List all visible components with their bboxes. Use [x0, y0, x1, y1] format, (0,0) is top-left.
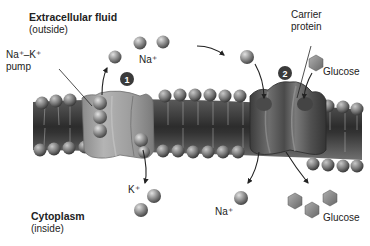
marker-1: 1 — [120, 72, 134, 86]
na-inside-label: Na⁺ — [215, 206, 233, 217]
na-ion-inside — [234, 191, 248, 205]
glucose-outside — [309, 55, 323, 71]
na-k-pump-protein — [82, 91, 154, 158]
svg-text:2: 2 — [282, 69, 287, 79]
membrane-transport-diagram: 1 2 Extracellular fluid (outside) Na⁺–K⁺… — [0, 0, 370, 246]
carrier-label-line2: protein — [291, 21, 322, 32]
outside-region-title: Extracellular fluid — [29, 12, 117, 23]
carrier-protein — [250, 82, 326, 155]
arrow-na-out — [102, 68, 107, 95]
glucose-inside-2 — [305, 202, 319, 218]
pump-label-line1: Na⁺–K⁺ — [6, 49, 41, 60]
marker-2: 2 — [278, 66, 292, 80]
k-inside-label: K⁺ — [128, 184, 140, 195]
svg-text:1: 1 — [124, 75, 129, 85]
arrow-na-to-carrier — [197, 46, 224, 55]
carrier-label-line1: Carrier — [291, 9, 322, 20]
pump-label-line2: pump — [6, 61, 31, 72]
inside-region-subtitle: (inside) — [31, 223, 64, 234]
glucose-inside-label: Glucose — [323, 212, 360, 223]
outside-region-subtitle: (outside) — [29, 24, 68, 35]
na-outside-label: Na⁺ — [139, 54, 157, 65]
na-ions-outside — [109, 36, 255, 65]
glucose-inside-1 — [288, 193, 302, 209]
glucose-outside-label: Glucose — [323, 66, 360, 77]
arrow-na-inside — [248, 152, 259, 183]
inside-region-title: Cytoplasm — [31, 211, 85, 222]
glucose-inside-3 — [323, 190, 337, 206]
